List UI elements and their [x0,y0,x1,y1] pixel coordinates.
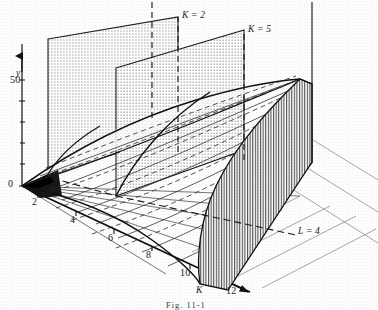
l4-label: L = 4 [298,226,320,236]
y-tick-0: 0 [8,178,13,189]
plane-k5-label: K = 5 [248,24,271,34]
figure-container: y 50 0 2 4 6 8 10 12 K K = 2 K = 5 L = 4… [0,0,378,310]
k-tick-10: 10 [180,267,190,278]
figure-caption: Fig. 11-1 [166,300,206,310]
k-tick-4: 4 [70,214,75,225]
k-tick-2: 2 [32,196,37,207]
k-axis-label: K [196,285,203,295]
y-tick-50: 50 [10,74,20,85]
k-tick-12: 12 [226,285,236,296]
k-tick-6: 6 [108,232,113,243]
plane-k2-label: K = 2 [182,10,205,20]
y-axis [19,44,25,186]
surface-plot-svg [0,0,378,310]
k-tick-8: 8 [146,249,151,260]
